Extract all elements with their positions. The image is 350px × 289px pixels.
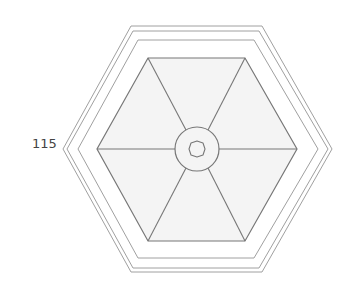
dimension-label: 115 <box>32 136 57 151</box>
hexagon-diagram: 115 <box>0 0 350 289</box>
center-hub-icon <box>189 141 205 157</box>
